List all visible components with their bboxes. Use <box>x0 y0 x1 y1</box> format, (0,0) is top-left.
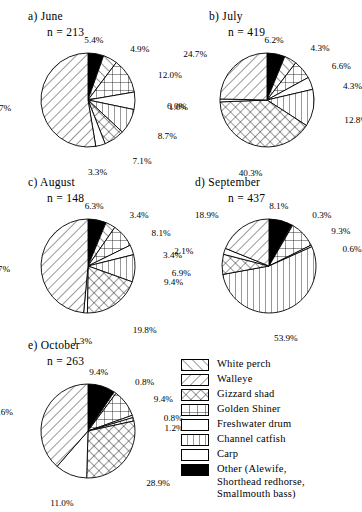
pie-slice-label: 6.6% <box>332 61 351 71</box>
pie-slice-label: 12.8% <box>344 115 362 125</box>
legend-label: Freshwater drum <box>217 418 291 431</box>
legend-label: Other (Alewife, Shorthead redhorse, Smal… <box>217 463 305 501</box>
pie-slice-label: 1.0% <box>169 102 188 112</box>
legend-item: Carp <box>181 448 359 461</box>
pie-slice-label: 18.9% <box>195 210 219 220</box>
legend-label: Channel catfish <box>217 433 286 446</box>
panel-n-october: n = 263 <box>47 355 84 367</box>
pie-slice-label: 53.9% <box>274 333 298 343</box>
pie-slice-label: 5.4% <box>84 35 103 45</box>
pie-slice-label: 8.1% <box>152 228 171 238</box>
legend-item: Other (Alewife, Shorthead redhorse, Smal… <box>181 463 359 501</box>
legend-item: Golden Shiner <box>181 403 359 416</box>
panel-n-july: n = 419 <box>228 26 265 38</box>
legend-swatch-solid-icon <box>181 464 209 476</box>
pie-chart-june: 5.4%4.9%12.0%6.0%8.7%7.1%3.3%52.7% <box>0 42 181 168</box>
pie-chart-july: 6.2%4.3%6.6%4.3%12.8%40.3%1.0%24.7% <box>181 42 362 168</box>
panel-title-september: d) September <box>195 176 260 188</box>
panel-july: b) July n = 419 6 <box>181 0 362 168</box>
pie-slice-label: 6.3% <box>85 201 104 211</box>
legend-item: Walleye <box>181 373 359 386</box>
pie-slice-label: 9.3% <box>331 226 350 236</box>
panel-title-june: a) June <box>28 10 63 22</box>
pie-slice-label: 48.7% <box>0 264 10 274</box>
pie-slice-label: 4.3% <box>311 43 330 53</box>
panel-title-october: e) October <box>28 339 80 351</box>
panel-n-august: n = 148 <box>47 192 84 204</box>
legend-label: Walleye <box>217 373 253 386</box>
legend-label: White perch <box>217 358 271 371</box>
panel-september: d) September n = 437 <box>181 168 362 333</box>
pie-chart-august: 6.3%3.4%8.1%3.4%9.4%19.8%1.3%48.7% <box>0 208 181 333</box>
pie-slice-label: 4.3% <box>343 81 362 91</box>
legend-item: Gizzard shad <box>181 388 359 401</box>
panel-june: a) June n = 213 5 <box>0 0 181 168</box>
legend-item: White perch <box>181 358 359 371</box>
panel-title-july: b) July <box>209 10 243 22</box>
pie-slice-label: 9.4% <box>154 394 173 404</box>
pie-slice-label: 9.4% <box>89 367 108 377</box>
legend-item: Freshwater drum <box>181 418 359 431</box>
pie-slice <box>220 53 267 100</box>
pie-slice-label: 6.2% <box>265 35 284 45</box>
pie-chart-september: 8.1%0.3%9.3%0.6%53.9%6.9%2.1%18.9% <box>181 208 362 333</box>
pie-slice-label: 0.8% <box>135 377 154 387</box>
pie-slice-label: 0.3% <box>312 210 331 220</box>
panel-n-june: n = 213 <box>47 26 84 38</box>
pie-slice-label: 28.9% <box>146 478 170 488</box>
pie-slice <box>87 421 135 478</box>
panel-n-september: n = 437 <box>228 192 265 204</box>
pie-chart-october: 9.4%0.8%9.4%0.8%1.2%28.9%11.0%38.6% <box>0 371 181 499</box>
pie-slice-label: 52.7% <box>0 103 12 113</box>
pie-slice <box>41 219 88 313</box>
pie-slice-label: 38.6% <box>0 407 13 417</box>
pie-slice <box>41 53 96 147</box>
panel-august: c) August n = 148 <box>0 168 181 333</box>
legend-swatch-diagonal-down-icon <box>181 374 209 386</box>
pie-slice-label: 4.9% <box>130 44 149 54</box>
pie-slice-label: 0.6% <box>343 244 362 254</box>
legend-label: Gizzard shad <box>217 388 275 401</box>
panel-october: e) October n = 263 <box>0 333 181 512</box>
legend-swatch-diagonal-up-icon <box>181 359 209 371</box>
pie-slice-label: 7.1% <box>132 156 151 166</box>
panel-title-august: c) August <box>28 176 75 188</box>
legend-swatch-blank-icon <box>181 419 209 431</box>
pie-slice-label: 6.9% <box>172 268 191 278</box>
pie-slice-label: 11.0% <box>50 498 74 508</box>
legend-label: Golden Shiner <box>217 403 281 416</box>
legend-swatch-blank-icon <box>181 449 209 461</box>
pie-slice-label: 3.4% <box>130 210 149 220</box>
pie-slice-label: 12.0% <box>158 70 182 80</box>
legend-label: Carp <box>217 448 238 461</box>
legend-item: Channel catfish <box>181 433 359 446</box>
pie-slice-label: 8.7% <box>158 131 177 141</box>
pie-slice-label: 2.1% <box>174 246 193 256</box>
pie-slice-label: 8.1% <box>269 201 288 211</box>
legend-swatch-crosshatch-icon <box>181 389 209 401</box>
legend-swatch-grid-icon <box>181 404 209 416</box>
pie-slice-label: 24.7% <box>183 49 207 59</box>
legend-swatch-vertical-icon <box>181 434 209 446</box>
legend: White perch Walleye Gizzard shad Golden … <box>181 358 359 503</box>
